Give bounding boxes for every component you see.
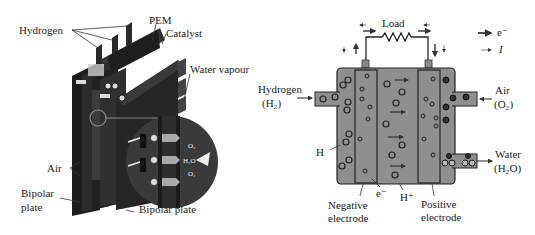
label-bipolar-plate-right: Bipolar plate [139,203,196,215]
negative-electrode [355,70,377,183]
inset-label-h2o: H₂O [183,155,196,167]
inset-detail [126,116,218,208]
inset-label-o2-top: O₂ [188,140,196,152]
label-h: H [316,146,324,158]
molecules [320,77,405,178]
inset-label-o2-bottom: O₂ [188,168,196,180]
legend-arrows [478,33,491,50]
hydrogen-inlet [315,92,339,106]
water-outlet [453,154,477,168]
label-proton: H⁺ [400,191,414,203]
label-air-right: Air [495,84,510,96]
cell-body [337,68,455,184]
label-negative-electrode-2: electrode [328,212,368,224]
label-load: Load [382,17,405,29]
legend-current-label: I [499,43,503,55]
circuit-wire [366,37,382,62]
label-bipolar-plate-left-1: Bipolar [21,187,54,199]
label-hydrogen-right: Hydrogen [258,83,302,95]
label-air-left: Air [47,162,62,174]
label-negative-electrode-1: Negative [328,199,368,211]
water-vapour-fins [178,58,186,114]
label-water-vapour: Water vapour [190,63,249,75]
label-water-formula: (H₂O) [494,162,521,174]
label-hydrogen-left: Hydrogen [19,24,63,36]
label-air-formula: (O₂) [494,98,513,110]
label-positive-electrode-1: Positive [421,198,456,210]
label-electron: e⁻ [376,187,387,199]
label-water: Water [495,148,521,160]
label-catalyst: Catalyst [166,27,202,39]
air-inlet [453,92,477,106]
resistor-icon [382,33,411,41]
label-positive-electrode-2: electrode [421,211,461,223]
label-bipolar-plate-left-2: plate [21,201,42,213]
label-hydrogen-formula: (H₂) [262,97,281,109]
label-pem: PEM [149,14,172,26]
legend-electron-label: e⁻ [497,26,508,38]
positive-electrode [418,70,440,183]
